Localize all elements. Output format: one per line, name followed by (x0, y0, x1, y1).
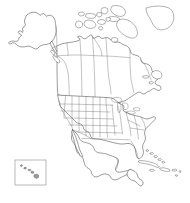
island-jamaica (150, 169, 155, 171)
island-puerto-rico (172, 169, 177, 171)
island-hawaii (34, 174, 39, 178)
region-prince-patrick-island (79, 12, 85, 16)
north-america-map (0, 0, 190, 203)
map-canvas (0, 0, 190, 203)
hawaii-inset (15, 160, 46, 185)
region-axel-heiberg-island (101, 8, 108, 15)
region-southampton-island (111, 38, 118, 43)
region-anticosti-island (143, 76, 150, 79)
region-banks-island (76, 21, 83, 28)
hawaii-inset-frame (15, 160, 46, 185)
